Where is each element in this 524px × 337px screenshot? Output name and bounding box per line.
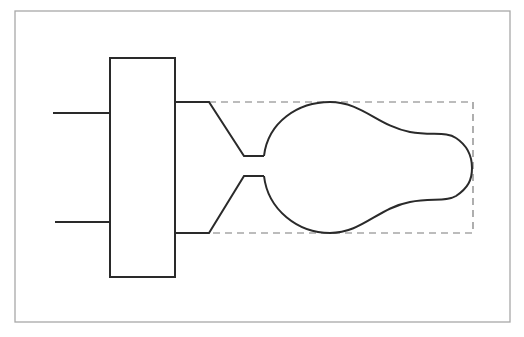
- figure-frame: [15, 11, 510, 322]
- rectangular-block: [110, 58, 175, 277]
- bulb-outline-lower: [264, 168, 472, 233]
- dashed-bounding-box: [209, 102, 473, 233]
- bulb-outline-upper: [264, 102, 472, 168]
- bulb-diagram: [0, 0, 524, 337]
- output-lead-lower-funnel: [175, 176, 264, 233]
- output-lead-upper-funnel: [175, 102, 264, 156]
